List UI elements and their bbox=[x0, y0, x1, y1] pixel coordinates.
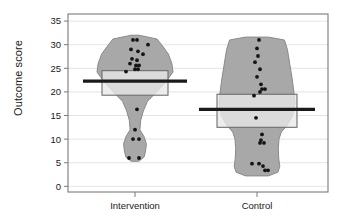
y-axis-label: Outcome score bbox=[8, 0, 28, 158]
y-tick-label: 25 bbox=[50, 63, 61, 74]
x-axis-category-label: Control bbox=[242, 200, 273, 211]
y-tick-label: 35 bbox=[50, 15, 61, 26]
y-axis-ticks: 05101520253035 bbox=[50, 15, 68, 191]
y-tick-label: 0 bbox=[56, 181, 61, 192]
x-axis-ticks: InterventionControl bbox=[110, 192, 272, 211]
y-tick-label: 5 bbox=[56, 157, 61, 168]
x-axis-category-label: Intervention bbox=[110, 200, 160, 211]
y-tick-label: 10 bbox=[50, 134, 61, 145]
y-tick-label: 15 bbox=[50, 110, 61, 121]
chart-container: 05101520253035 InterventionControl Outco… bbox=[0, 0, 346, 222]
y-tick-label: 30 bbox=[50, 39, 61, 50]
violin-plot-svg: 05101520253035 InterventionControl bbox=[0, 0, 346, 222]
y-tick-label: 20 bbox=[50, 86, 61, 97]
